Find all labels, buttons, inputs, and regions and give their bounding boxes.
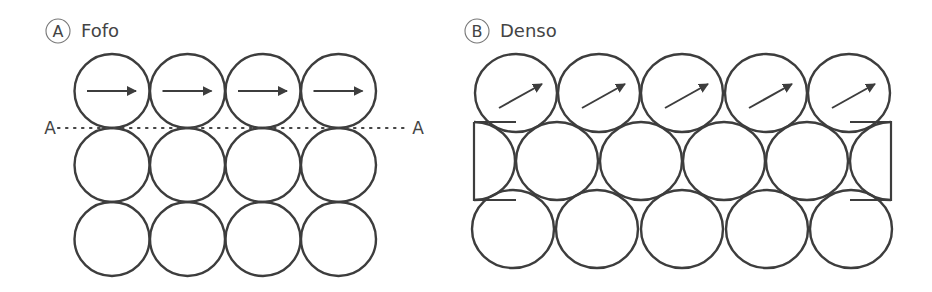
- grain-circle: [726, 190, 808, 268]
- grain-circle: [766, 122, 848, 200]
- grain-circle: [472, 190, 554, 268]
- movement-arrow-icon: [582, 84, 625, 108]
- movement-arrow-icon: [499, 84, 542, 108]
- grain-partial-left: [474, 122, 515, 200]
- panel-a-badge-letter: A: [53, 22, 64, 41]
- grain-circle: [226, 128, 301, 202]
- grain-circle: [301, 202, 376, 276]
- grain-circle: [600, 122, 682, 200]
- grain-circle: [301, 128, 376, 202]
- grain-circle: [810, 190, 892, 268]
- movement-arrow-icon: [665, 84, 708, 108]
- grain-circle: [475, 54, 557, 132]
- panel-b-badge-letter: B: [472, 22, 483, 41]
- panel-a-header: A Fofo: [46, 19, 119, 43]
- panel-a-title: Fofo: [81, 20, 119, 41]
- movement-arrow-icon: [832, 84, 875, 108]
- grain-circle: [641, 190, 723, 268]
- panel-b-header: B Denso: [465, 19, 557, 43]
- section-line-a-a: A A: [44, 118, 424, 138]
- grain-circle: [150, 202, 225, 276]
- panel-b-grains: [472, 54, 892, 268]
- movement-arrow-icon: [749, 84, 792, 108]
- diagram-canvas: A Fofo A A B Denso: [0, 0, 932, 292]
- grain-partial-right: [850, 122, 891, 200]
- section-label-left: A: [44, 118, 56, 138]
- grain-circle: [808, 54, 890, 132]
- grain-circle: [558, 54, 640, 132]
- grain-circle: [75, 202, 150, 276]
- grain-circle: [75, 128, 150, 202]
- grain-circle: [150, 128, 225, 202]
- panel-a-grains: [75, 54, 377, 276]
- grain-circle: [725, 54, 807, 132]
- grain-circle: [641, 54, 723, 132]
- grain-circle: [683, 122, 765, 200]
- panel-b-title: Denso: [500, 20, 557, 41]
- grain-circle: [516, 122, 598, 200]
- grain-circle: [226, 202, 301, 276]
- grain-circle: [556, 190, 638, 268]
- section-label-right: A: [412, 118, 424, 138]
